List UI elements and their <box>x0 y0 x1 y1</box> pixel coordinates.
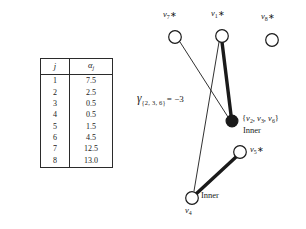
star-icon: ∗ <box>218 9 225 18</box>
edge-v4-v5 <box>196 157 236 194</box>
inner-set-label: {v2, v3, v6} <box>242 113 279 124</box>
set-close-brace: } <box>275 113 279 123</box>
node-v7[interactable] <box>169 31 182 44</box>
edge-v1-v4 <box>194 42 219 191</box>
node-label-v4: v4 <box>185 205 192 216</box>
node-label-v4-sub: 4 <box>189 210 192 216</box>
set-member-v2-sub: 2 <box>250 118 253 124</box>
node-v1[interactable] <box>216 30 229 43</box>
edge-v1-inner <box>222 42 231 115</box>
set-member-v3-sub: 3 <box>261 118 264 124</box>
star-icon: ∗ <box>257 145 264 154</box>
node-v4[interactable] <box>186 192 199 205</box>
inner-caption-top: Inner <box>243 125 261 135</box>
star-icon: ∗ <box>170 10 177 19</box>
node-inner-v2-v3-v6[interactable] <box>226 115 238 127</box>
node-label-v5: v5∗ <box>250 144 264 155</box>
node-v5[interactable] <box>234 146 247 159</box>
node-label-v7: v7∗ <box>163 9 177 20</box>
node-v8[interactable] <box>266 34 279 47</box>
node-label-v1: v1∗ <box>211 8 225 19</box>
figure-container: j αj 1 7.5 2 2.5 3 0.5 4 0.5 5 1 <box>0 0 306 229</box>
node-label-v8: v8∗ <box>261 11 275 22</box>
inner-caption-bottom: Inner <box>201 190 219 200</box>
edge-v7-inner <box>180 42 228 117</box>
star-icon: ∗ <box>268 12 275 21</box>
